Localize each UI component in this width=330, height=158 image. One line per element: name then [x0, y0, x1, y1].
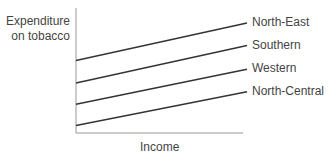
series-line-north-central [76, 92, 247, 126]
series-line-western [76, 69, 247, 104]
series-lines [76, 23, 247, 126]
y-axis-label-line-2: on tobacco [6, 29, 70, 44]
y-axis-label: Expenditure on tobacco [6, 14, 70, 44]
series-label-north-central: North-Central [252, 84, 324, 98]
x-axis-label: Income [140, 140, 179, 154]
series-line-southern [76, 46, 247, 84]
y-axis-label-line-1: Expenditure [6, 14, 70, 29]
series-label-western: Western [252, 61, 296, 75]
series-line-north-east [76, 23, 247, 61]
series-label-north-east: North-East [252, 15, 309, 29]
chart-area: Expenditure on tobacco Income North-East… [0, 0, 330, 158]
series-label-southern: Southern [252, 38, 301, 52]
